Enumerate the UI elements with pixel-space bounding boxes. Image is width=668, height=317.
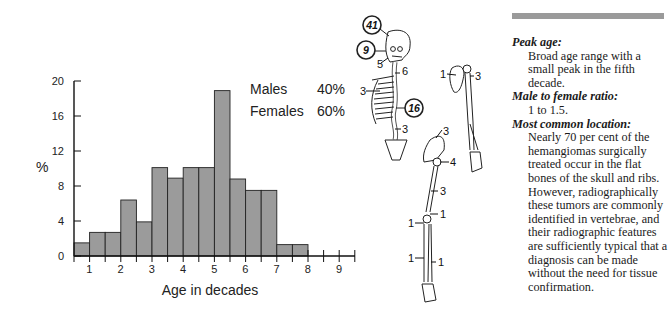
histogram-bar bbox=[246, 190, 262, 256]
histogram-bar bbox=[121, 200, 137, 256]
section-heading-peak-age: Peak age: bbox=[512, 36, 668, 50]
label-fibula: 1 bbox=[438, 256, 444, 268]
label-upper-spine: 6 bbox=[402, 65, 408, 77]
header-rule bbox=[512, 13, 664, 19]
y-tick-label: 20 bbox=[52, 75, 64, 87]
y-axis-ticks: 048121620 bbox=[52, 75, 81, 262]
section-body-sex-ratio: 1 to 1.5. bbox=[512, 104, 668, 118]
description-text: Peak age: Broad age range with a small p… bbox=[512, 36, 668, 294]
label-patella: 1 bbox=[408, 217, 414, 229]
circled-label-41: 41 bbox=[363, 16, 389, 36]
svg-text:41: 41 bbox=[365, 19, 378, 31]
histogram-bar bbox=[74, 243, 90, 256]
label-distal-femur: 1 bbox=[440, 208, 446, 220]
skeleton-distribution-figure: 41 9 16 5 6 3 3 1 3 3 4 3 1 1 1 1 bbox=[290, 0, 510, 317]
section-body-location: Nearly 70 per cent of the hemangiomas su… bbox=[512, 131, 668, 294]
label-scapula: 1 bbox=[440, 68, 446, 80]
label-cervical: 5 bbox=[377, 58, 383, 70]
x-tick-label: 2 bbox=[118, 263, 124, 275]
x-axis-label: Age in decades bbox=[162, 282, 259, 298]
x-tick-label: 1 bbox=[86, 263, 92, 275]
histogram-bar bbox=[105, 232, 121, 256]
x-tick-label: 5 bbox=[211, 263, 217, 275]
histogram-bar bbox=[261, 190, 277, 256]
y-tick-label: 4 bbox=[58, 215, 64, 227]
histogram-bar bbox=[168, 178, 184, 256]
histogram-bar bbox=[230, 179, 246, 256]
histogram-bar bbox=[90, 232, 106, 256]
ribcage-icon bbox=[372, 76, 394, 124]
label-humerus-head: 3 bbox=[475, 70, 481, 82]
svg-text:16: 16 bbox=[408, 102, 420, 114]
label-hip: 4 bbox=[450, 156, 456, 168]
section-body-peak-age: Broad age range with a small peak in the… bbox=[512, 50, 668, 91]
y-tick-label: 0 bbox=[58, 250, 64, 262]
y-tick-label: 8 bbox=[58, 180, 64, 192]
x-tick-label: 3 bbox=[149, 263, 155, 275]
y-axis-label: % bbox=[36, 159, 48, 175]
circled-label-9: 9 bbox=[357, 41, 386, 59]
y-tick-label: 12 bbox=[52, 145, 64, 157]
histogram-bar bbox=[183, 168, 199, 256]
y-tick-label: 16 bbox=[52, 110, 64, 122]
histogram-bar bbox=[214, 91, 230, 256]
label-femur: 3 bbox=[440, 185, 446, 197]
x-tick-label: 6 bbox=[242, 263, 248, 275]
circled-label-16: 16 bbox=[396, 99, 423, 117]
histogram-bar bbox=[136, 222, 152, 256]
description-panel: Peak age: Broad age range with a small p… bbox=[508, 0, 664, 317]
x-tick-label: 4 bbox=[180, 263, 186, 275]
section-heading-sex-ratio: Male to female ratio: bbox=[512, 90, 668, 104]
histogram-bar bbox=[199, 168, 215, 256]
label-lumbar: 3 bbox=[402, 123, 408, 135]
x-tick-label: 7 bbox=[274, 263, 280, 275]
skull-icon bbox=[386, 30, 410, 62]
histogram-bar bbox=[152, 168, 168, 256]
label-ribs: 3 bbox=[360, 85, 366, 97]
svg-text:9: 9 bbox=[363, 44, 369, 56]
section-heading-location: Most common location: bbox=[512, 118, 668, 132]
label-tibia: 1 bbox=[408, 252, 414, 264]
legend-males-label: Males bbox=[250, 81, 287, 97]
label-pelvis: 3 bbox=[443, 125, 449, 137]
